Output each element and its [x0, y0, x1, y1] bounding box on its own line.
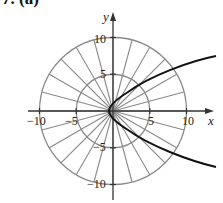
y-axis-label: y — [101, 9, 109, 24]
y-tick-label: −10 — [87, 177, 106, 191]
x-axis-label: x — [207, 113, 214, 128]
x-tick-label: 5 — [148, 114, 154, 128]
x-tick-label: 10 — [182, 114, 194, 128]
y-tick-label: −5 — [93, 140, 106, 154]
y-axis-arrow-icon — [110, 12, 116, 21]
y-tick-label: 10 — [94, 32, 106, 46]
polar-graph: y x −10 −5 5 10 10 5 −5 −10 — [0, 0, 223, 203]
x-tick-label: −10 — [27, 114, 46, 128]
y-tick-label: 5 — [100, 67, 106, 81]
x-tick-label: −5 — [65, 114, 78, 128]
